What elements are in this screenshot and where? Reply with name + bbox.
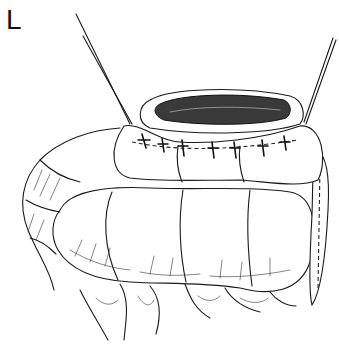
mesentery <box>80 284 296 340</box>
stay-suture-right <box>304 38 336 124</box>
bowel-anastomosis-illustration <box>0 0 339 346</box>
anastomosis-segment <box>114 125 323 184</box>
lower-bowel-loop <box>53 188 314 292</box>
stay-suture-left <box>76 14 132 124</box>
bowel-lumen-opening <box>140 90 303 133</box>
